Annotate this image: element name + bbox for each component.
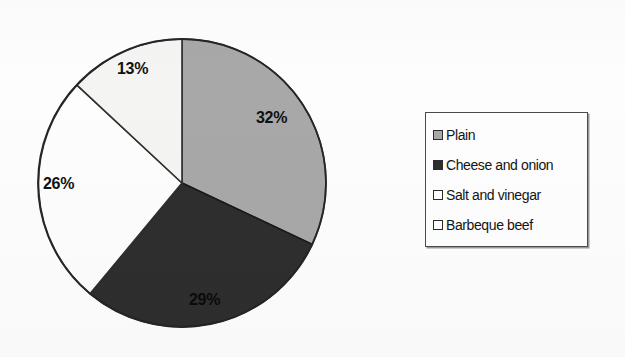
- pie-label-plain: 32%: [256, 109, 287, 127]
- chart-legend: Plain Cheese and onion Salt and vinegar …: [425, 112, 588, 247]
- pie-chart-svg: [37, 38, 327, 328]
- pie-label-barbeque-beef: 13%: [117, 60, 148, 78]
- legend-item-salt-and-vinegar: Salt and vinegar: [433, 180, 587, 210]
- chart-page: 32% 29% 26% 13% Plain Cheese and onion S…: [0, 0, 625, 357]
- legend-label-salt-and-vinegar: Salt and vinegar: [446, 188, 541, 202]
- legend-label-plain: Plain: [446, 128, 475, 142]
- legend-label-barbeque-beef: Barbeque beef: [446, 218, 533, 232]
- legend-item-cheese-and-onion: Cheese and onion: [433, 150, 587, 180]
- legend-swatch-cheese-and-onion-icon: [433, 160, 443, 170]
- pie-chart: [37, 38, 327, 328]
- legend-item-plain: Plain: [433, 120, 587, 150]
- legend-swatch-barbeque-beef-icon: [433, 220, 443, 230]
- legend-label-cheese-and-onion: Cheese and onion: [446, 158, 553, 172]
- legend-item-barbeque-beef: Barbeque beef: [433, 210, 587, 240]
- pie-label-cheese-and-onion: 29%: [189, 291, 220, 309]
- legend-swatch-plain-icon: [433, 130, 443, 140]
- pie-label-salt-and-vinegar: 26%: [43, 175, 74, 193]
- legend-swatch-salt-and-vinegar-icon: [433, 190, 443, 200]
